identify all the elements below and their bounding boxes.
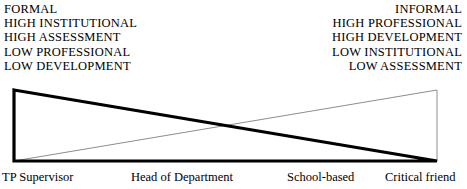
right-attribute-item: LOW INSTITUTIONAL — [332, 45, 462, 59]
role-label-critical-friend: Critical friend — [385, 170, 455, 185]
left-attribute-list: FORMAL HIGH INSTITUTIONAL HIGH ASSESSMEN… — [4, 2, 137, 73]
right-attribute-item: HIGH PROFESSIONAL — [332, 16, 462, 30]
right-attribute-list: INFORMAL HIGH PROFESSIONAL HIGH DEVELOPM… — [332, 2, 462, 73]
crossing-wedges-diagram — [0, 84, 467, 166]
right-attribute-item: INFORMAL — [332, 2, 462, 16]
role-label-head-of-department: Head of Department — [131, 170, 233, 185]
right-attribute-item: LOW ASSESSMENT — [332, 59, 462, 73]
left-attribute-item: LOW DEVELOPMENT — [4, 59, 137, 73]
right-attribute-item: HIGH DEVELOPMENT — [332, 30, 462, 44]
role-label-school-based: School-based — [287, 170, 354, 185]
left-attribute-item: HIGH INSTITUTIONAL — [4, 16, 137, 30]
left-attribute-item: HIGH ASSESSMENT — [4, 30, 137, 44]
diagram-page: FORMAL HIGH INSTITUTIONAL HIGH ASSESSMEN… — [0, 0, 467, 189]
left-attribute-item: LOW PROFESSIONAL — [4, 45, 137, 59]
left-attribute-item: FORMAL — [4, 2, 137, 16]
role-label-tp-supervisor: TP Supervisor — [2, 170, 73, 185]
role-label-axis: TP Supervisor Head of Department School-… — [0, 170, 467, 189]
